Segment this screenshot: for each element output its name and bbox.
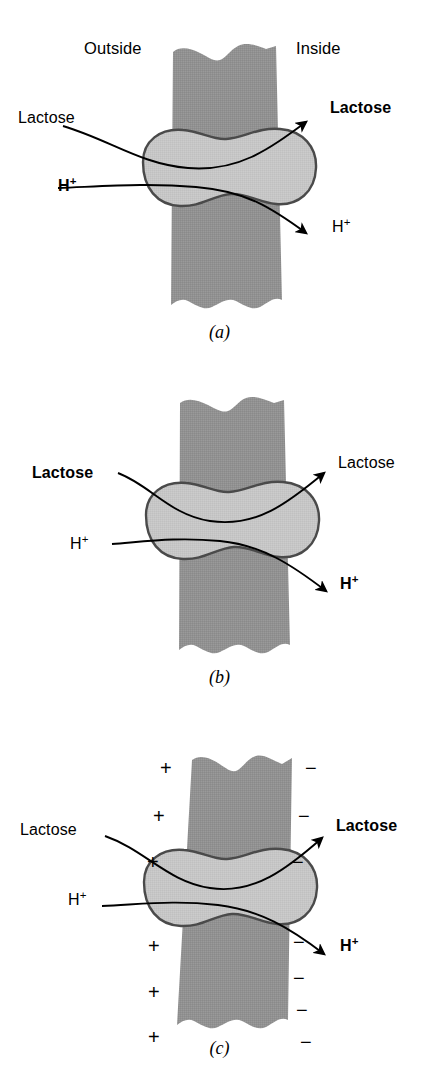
panel-c: + + + + + + − − − − − − − Lactose H+ Lac… bbox=[0, 700, 439, 1066]
panel-caption-b: (b) bbox=[0, 667, 439, 688]
proton-label-outside-a: H+ bbox=[58, 178, 76, 194]
lactose-label-outside-c: Lactose bbox=[20, 822, 77, 838]
charge-negative: − bbox=[298, 806, 310, 826]
proton-label-inside-b: H+ bbox=[340, 576, 358, 592]
proton-symbol-inside-b: H bbox=[340, 575, 352, 592]
transporter-protein-b bbox=[146, 482, 319, 559]
proton-charge-inside-a: + bbox=[344, 216, 351, 228]
proton-charge-b: + bbox=[82, 533, 89, 545]
proton-label-inside-a: H+ bbox=[332, 219, 350, 235]
proton-charge-inside-b: + bbox=[352, 573, 359, 585]
charge-positive: + bbox=[148, 936, 160, 956]
proton-symbol-c: H bbox=[68, 891, 80, 908]
charge-negative: − bbox=[296, 1000, 308, 1020]
transporter-protein-a bbox=[143, 129, 316, 206]
proton-symbol-inside-a: H bbox=[332, 218, 344, 235]
panel-a: Outside Inside Lactose H+ Lactose H+ (a) bbox=[0, 0, 439, 355]
proton-symbol-a: H bbox=[58, 177, 70, 194]
panel-caption-c: (c) bbox=[0, 1038, 439, 1059]
inside-label-a: Inside bbox=[296, 40, 341, 57]
proton-symbol-b: H bbox=[70, 535, 82, 552]
lactose-label-outside-a: Lactose bbox=[18, 110, 75, 126]
proton-label-outside-b: H+ bbox=[70, 536, 88, 552]
proton-label-outside-c: H+ bbox=[68, 892, 86, 908]
proton-charge-inside-c: + bbox=[352, 935, 359, 947]
outside-label-a: Outside bbox=[84, 40, 142, 57]
lactose-label-outside-b: Lactose bbox=[32, 465, 93, 481]
lactose-label-inside-a: Lactose bbox=[330, 100, 391, 116]
charge-negative: − bbox=[293, 968, 305, 988]
charge-negative: − bbox=[293, 932, 305, 952]
figure-lactose-permease: Outside Inside Lactose H+ Lactose H+ (a) bbox=[0, 0, 439, 1066]
proton-symbol-inside-c: H bbox=[340, 937, 352, 954]
panel-b: Lactose H+ Lactose H+ (b) bbox=[0, 355, 439, 700]
charge-positive: + bbox=[148, 982, 160, 1002]
panel-caption-a: (a) bbox=[0, 322, 439, 343]
lactose-label-inside-b: Lactose bbox=[338, 455, 395, 471]
charge-negative: − bbox=[292, 852, 304, 872]
proton-label-inside-c: H+ bbox=[340, 938, 358, 954]
charge-positive: + bbox=[153, 806, 165, 826]
proton-charge-c: + bbox=[80, 889, 87, 901]
panel-c-graphic bbox=[0, 700, 439, 1066]
charge-positive: + bbox=[160, 758, 172, 778]
charge-positive: + bbox=[147, 852, 159, 872]
lactose-label-inside-c: Lactose bbox=[336, 818, 397, 834]
panel-b-graphic bbox=[0, 355, 439, 700]
charge-negative: − bbox=[305, 758, 317, 778]
proton-charge-a: + bbox=[70, 175, 77, 187]
